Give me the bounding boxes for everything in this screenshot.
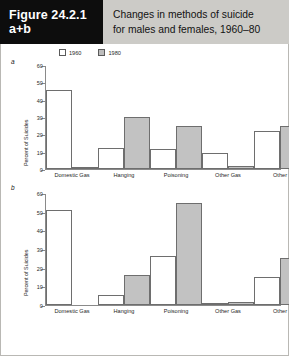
figure-title-band: Changes in methods of suicide for males … bbox=[103, 0, 289, 44]
bar-1980 bbox=[228, 302, 254, 305]
panel-b: b Percent of Suicides 0102030405060 Dome… bbox=[1, 184, 289, 342]
figure-body: 1960 1980 a Percent of Suicides 01020304… bbox=[0, 44, 289, 356]
legend-swatch-1960-icon bbox=[59, 49, 66, 56]
legend-swatch-1980-icon bbox=[98, 49, 105, 56]
figure-title-line2: for males and females, 1960–80 bbox=[113, 22, 289, 37]
legend-item-1980: 1980 bbox=[98, 49, 120, 56]
y-tick-label: 30 bbox=[37, 247, 43, 253]
y-tick-label: 0 bbox=[40, 167, 43, 173]
panel-b-label: b bbox=[11, 184, 15, 191]
bar-group: Domestic Gas bbox=[46, 194, 98, 305]
y-tick-label: 50 bbox=[37, 80, 43, 86]
bar-group: Hanging bbox=[98, 66, 150, 169]
bar-group: Domestic Gas bbox=[46, 66, 98, 169]
bar-group: Other bbox=[254, 194, 289, 305]
bar-1980 bbox=[280, 126, 289, 169]
x-axis-label: Other bbox=[273, 172, 287, 178]
bar-group: Hanging bbox=[98, 194, 150, 305]
panel-a-bar-groups: Domestic GasHangingPoisoningOther GasOth… bbox=[46, 66, 281, 169]
figure-title-line1: Changes in methods of suicide bbox=[113, 7, 289, 22]
x-axis-label: Other bbox=[273, 308, 287, 314]
panel-a-ylabel: Percent of Suicides bbox=[23, 84, 29, 166]
figure-number-box: Figure 24.2.1 a+b bbox=[0, 0, 103, 44]
y-tick-label: 60 bbox=[37, 191, 43, 197]
bar-1980 bbox=[124, 117, 150, 169]
x-axis-label: Hanging bbox=[114, 308, 135, 314]
panel-b-ylabel: Percent of Suicides bbox=[23, 214, 29, 296]
y-tick-label: 40 bbox=[37, 228, 43, 234]
legend-label-1960: 1960 bbox=[69, 50, 81, 56]
bar-1980 bbox=[228, 166, 254, 169]
bar-group: Other Gas bbox=[202, 66, 254, 169]
x-axis-label: Other Gas bbox=[215, 172, 241, 178]
bar-1960 bbox=[98, 295, 124, 305]
bar-1960 bbox=[98, 148, 124, 169]
figure-header: Figure 24.2.1 a+b Changes in methods of … bbox=[0, 0, 289, 44]
bar-group: Poisoning bbox=[150, 66, 202, 169]
panel-a: a Percent of Suicides 0102030405060 Dome… bbox=[1, 58, 289, 193]
bar-1960 bbox=[254, 131, 280, 169]
bar-1960 bbox=[202, 153, 228, 169]
bar-1960 bbox=[150, 149, 176, 169]
figure-number-line1: Figure 24.2.1 bbox=[9, 8, 103, 22]
bar-group: Other Gas bbox=[202, 194, 254, 305]
x-axis-label: Hanging bbox=[114, 172, 135, 178]
panel-a-label: a bbox=[11, 58, 15, 65]
panel-b-xaxis bbox=[45, 305, 281, 306]
bar-1960 bbox=[254, 277, 280, 305]
y-tick-label: 30 bbox=[37, 115, 43, 121]
x-axis-label: Domestic Gas bbox=[54, 308, 89, 314]
bar-1980 bbox=[176, 126, 202, 169]
y-tick-label: 20 bbox=[37, 132, 43, 138]
legend-label-1980: 1980 bbox=[108, 50, 120, 56]
y-tick-label: 40 bbox=[37, 98, 43, 104]
y-tick-label: 0 bbox=[40, 303, 43, 309]
y-tick-label: 50 bbox=[37, 210, 43, 216]
chart-legend: 1960 1980 bbox=[59, 49, 121, 56]
bar-1980 bbox=[72, 167, 98, 169]
bar-group: Poisoning bbox=[150, 194, 202, 305]
panel-a-plot: 0102030405060 Domestic GasHangingPoisoni… bbox=[45, 66, 281, 170]
bar-1960 bbox=[46, 210, 72, 305]
x-axis-label: Other Gas bbox=[215, 308, 241, 314]
panel-b-plot: 0102030405060 Domestic GasHangingPoisoni… bbox=[45, 194, 281, 306]
legend-item-1960: 1960 bbox=[59, 49, 81, 56]
y-tick-label: 20 bbox=[37, 266, 43, 272]
y-tick-label: 10 bbox=[37, 284, 43, 290]
bar-1960 bbox=[150, 256, 176, 305]
bar-1980 bbox=[280, 258, 289, 305]
bar-1960 bbox=[46, 90, 72, 169]
figure-number-line2: a+b bbox=[9, 22, 103, 36]
figure-24-2-1: Figure 24.2.1 a+b Changes in methods of … bbox=[0, 0, 289, 356]
panel-b-bar-groups: Domestic GasHangingPoisoningOther GasOth… bbox=[46, 194, 281, 305]
x-axis-label: Domestic Gas bbox=[54, 172, 89, 178]
bar-1980 bbox=[176, 203, 202, 305]
x-axis-label: Poisoning bbox=[164, 172, 189, 178]
panel-a-xaxis bbox=[45, 169, 281, 170]
bar-1980 bbox=[124, 275, 150, 305]
x-axis-label: Poisoning bbox=[164, 308, 189, 314]
y-tick-label: 10 bbox=[37, 150, 43, 156]
bar-1960 bbox=[202, 303, 228, 305]
y-tick-label: 60 bbox=[37, 63, 43, 69]
bar-group: Other bbox=[254, 66, 289, 169]
